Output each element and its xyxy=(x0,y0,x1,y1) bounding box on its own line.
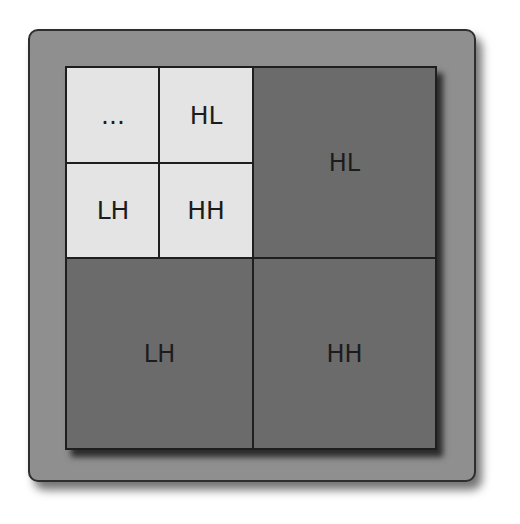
label-hl2: HL xyxy=(190,101,223,130)
cell-lh2: LH xyxy=(67,164,159,257)
cell-hl1: HL xyxy=(254,68,435,257)
divider-h-level2 xyxy=(67,162,254,164)
cell-hh1: HH xyxy=(254,259,435,448)
label-lh2: LH xyxy=(97,196,130,225)
label-hh1: HH xyxy=(326,340,362,368)
cell-hl2: HL xyxy=(160,68,252,163)
cell-hh2: HH xyxy=(160,164,252,257)
cell-lh1: LH xyxy=(67,259,252,448)
divider-h-level1 xyxy=(67,257,435,259)
label-hh2: HH xyxy=(187,196,225,225)
label-ll2: ... xyxy=(101,101,125,130)
cell-ll2: ... xyxy=(67,68,159,163)
subband-grid: ... HL LH HH HL LH HH xyxy=(65,66,437,450)
label-lh1: LH xyxy=(144,340,175,368)
label-hl1: HL xyxy=(329,149,360,177)
